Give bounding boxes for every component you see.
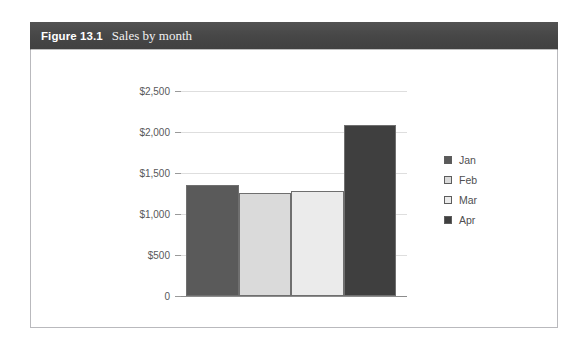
legend-swatch-icon bbox=[444, 176, 452, 184]
legend-label: Jan bbox=[459, 154, 476, 166]
y-axis-tick-label: 0 bbox=[164, 291, 170, 302]
legend-swatch-icon bbox=[444, 156, 452, 164]
y-axis-tick-label: $500 bbox=[148, 250, 170, 261]
y-axis-tick-label: $2,500 bbox=[139, 86, 170, 97]
chart-area: $2,500$2,000$1,500$1,000$5000 JanFebMarA… bbox=[30, 49, 558, 328]
y-axis-tick-mark bbox=[175, 255, 181, 256]
legend-swatch-icon bbox=[444, 216, 452, 224]
legend-item-feb: Feb bbox=[444, 170, 544, 190]
gridline bbox=[175, 91, 407, 92]
bar-chart-plot: $2,500$2,000$1,500$1,000$5000 bbox=[186, 91, 396, 296]
bar-jan bbox=[186, 185, 239, 296]
legend-label: Mar bbox=[459, 194, 477, 206]
y-axis-tick-mark bbox=[175, 132, 181, 133]
legend-item-jan: Jan bbox=[444, 150, 544, 170]
bar-apr bbox=[344, 125, 397, 296]
chart-legend: JanFebMarApr bbox=[444, 150, 544, 230]
figure-number: Figure 13.1 bbox=[41, 30, 103, 42]
legend-item-mar: Mar bbox=[444, 190, 544, 210]
figure-title: Sales by month bbox=[112, 28, 192, 44]
legend-label: Apr bbox=[459, 214, 475, 226]
y-axis-tick-label: $1,500 bbox=[139, 168, 170, 179]
y-axis-tick-mark bbox=[175, 91, 181, 92]
figure-header: Figure 13.1 Sales by month bbox=[30, 22, 558, 49]
y-axis-tick-label: $1,000 bbox=[139, 209, 170, 220]
legend-label: Feb bbox=[459, 174, 477, 186]
bar-mar bbox=[291, 191, 344, 296]
y-axis-tick-mark bbox=[175, 214, 181, 215]
legend-item-apr: Apr bbox=[444, 210, 544, 230]
y-axis-tick-mark bbox=[175, 173, 181, 174]
y-axis-tick-mark bbox=[175, 296, 181, 297]
bar-feb bbox=[239, 193, 292, 296]
axis-baseline bbox=[175, 296, 407, 297]
y-axis-tick-label: $2,000 bbox=[139, 127, 170, 138]
legend-swatch-icon bbox=[444, 196, 452, 204]
